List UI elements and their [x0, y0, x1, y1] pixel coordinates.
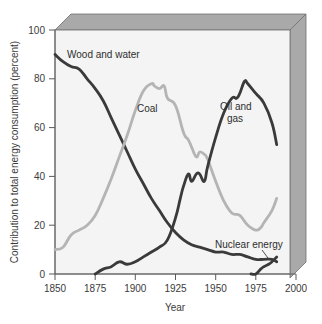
y-axis-title: Contribution to total energy consumption…: [9, 41, 20, 263]
y-tick-label-40: 40: [34, 171, 46, 182]
x-tick-label-1975: 1975: [245, 283, 268, 294]
y-tick-label-20: 20: [34, 220, 46, 231]
series-label-coal: Coal: [137, 103, 158, 114]
energy-consumption-chart: 100 80 60 40 20 0 1850 1875 1900 1925 19…: [0, 0, 322, 324]
series-label-wood-and-water: Wood and water: [67, 49, 140, 60]
series-label-oil-and-gas-line2: gas: [227, 113, 243, 124]
series-label-nuclear-energy: Nuclear energy: [215, 239, 283, 250]
x-tick-label-1900: 1900: [124, 283, 147, 294]
x-axis-title: Year: [165, 302, 186, 313]
y-tick-label-100: 100: [28, 25, 45, 36]
x-axis-ticks: [55, 274, 296, 280]
y-axis-ticks: [49, 30, 55, 274]
y-tick-label-0: 0: [39, 269, 45, 280]
x-tick-label-1925: 1925: [164, 283, 187, 294]
y-tick-label-80: 80: [34, 73, 46, 84]
x-tick-label-1850: 1850: [44, 283, 67, 294]
series-label-oil-and-gas-line1: Oil and: [220, 101, 252, 112]
x-tick-label-1950: 1950: [205, 283, 228, 294]
chart-3d-right-panel: [290, 14, 306, 278]
chart-3d-top-panel: [55, 14, 306, 30]
y-tick-label-60: 60: [34, 122, 46, 133]
chart-svg: 100 80 60 40 20 0 1850 1875 1900 1925 19…: [0, 0, 322, 324]
plot-area-background: [55, 30, 290, 274]
x-tick-label-2000: 2000: [285, 283, 308, 294]
x-tick-label-1875: 1875: [84, 283, 107, 294]
